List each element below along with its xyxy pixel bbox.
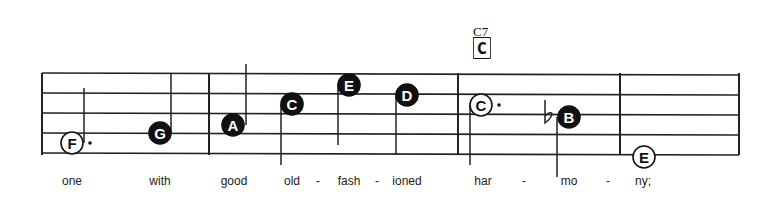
lyric-syllable: mo xyxy=(561,174,578,188)
lyric-syllable: ny; xyxy=(635,174,651,188)
note-letter: D xyxy=(402,87,413,104)
note-f: F xyxy=(61,88,92,154)
note-letter: E xyxy=(344,77,354,94)
lyric-syllable: har xyxy=(474,174,491,188)
note-letter: F xyxy=(67,135,76,152)
note-letter: C xyxy=(287,96,298,113)
note-letter: E xyxy=(639,149,649,166)
note-letter: G xyxy=(154,125,166,142)
dot-icon xyxy=(88,141,92,145)
note-d: D xyxy=(396,84,418,155)
lyric-syllable: ioned xyxy=(392,174,421,188)
note-b: B xyxy=(545,100,580,177)
chord-box: C xyxy=(473,37,491,59)
lyric-syllable: with xyxy=(149,174,170,188)
lyric-hyphen: - xyxy=(375,174,379,188)
note-e: E xyxy=(633,146,655,168)
lyric-syllable: fash xyxy=(338,174,361,188)
flat-icon xyxy=(545,100,552,123)
lyric-hyphen: - xyxy=(522,174,526,188)
music-staff: FGACEDCBE xyxy=(0,0,778,203)
note-g: G xyxy=(149,74,171,144)
lyric-syllable: one xyxy=(62,174,82,188)
staff-line xyxy=(42,93,739,95)
lyric-hyphen: - xyxy=(316,174,320,188)
note-letter: A xyxy=(228,117,239,134)
note-letter: B xyxy=(564,109,575,126)
staff-line xyxy=(42,113,739,115)
note-a: A xyxy=(222,64,246,136)
lyric-syllable: old xyxy=(284,174,300,188)
lyric-hyphen: - xyxy=(606,174,610,188)
note-letter: C xyxy=(476,97,487,114)
dot-icon xyxy=(497,103,501,107)
staff-line xyxy=(42,133,739,135)
staff-line xyxy=(42,73,739,75)
lyric-syllable: good xyxy=(221,174,248,188)
